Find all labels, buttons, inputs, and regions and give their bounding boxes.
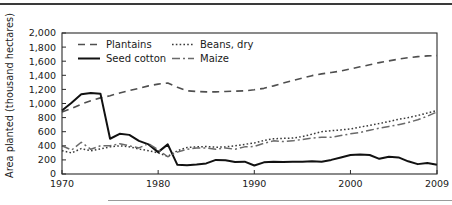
x-tick-label: 2009 xyxy=(425,178,449,189)
figure-container: Area planted (thousand hectares) 0200400… xyxy=(0,0,452,205)
x-tick-label: 2000 xyxy=(338,178,362,189)
x-tick-label: 1990 xyxy=(242,178,266,189)
legend-label-seed_cotton: Seed cotton xyxy=(106,53,166,64)
legend-label-maize: Maize xyxy=(200,53,229,64)
x-tick-label: 1970 xyxy=(50,178,74,189)
series-line-plantains xyxy=(62,56,437,112)
y-tick-label: 1,400 xyxy=(29,70,56,81)
series-group xyxy=(62,56,437,166)
series-line-seed_cotton xyxy=(62,93,437,166)
x-axis-tick-labels: 19701980199020002009 xyxy=(50,178,449,189)
bottom-divider-rule xyxy=(108,200,452,201)
legend-label-beans_dry: Beans, dry xyxy=(200,39,254,50)
y-tick-label: 200 xyxy=(38,154,56,165)
legend-label-plantains: Plantains xyxy=(106,39,152,50)
y-tick-label: 1,200 xyxy=(29,84,56,95)
y-axis-title: Area planted (thousand hectares) xyxy=(4,13,15,178)
y-tick-label: 600 xyxy=(38,126,56,137)
line-chart: Area planted (thousand hectares) 0200400… xyxy=(0,0,452,205)
y-axis-tick-marks xyxy=(62,33,66,174)
x-tick-label: 1980 xyxy=(146,178,170,189)
y-tick-label: 2,000 xyxy=(29,27,56,38)
y-axis-tick-labels: 02004006008001,0001,2001,4001,6001,8002,… xyxy=(29,27,56,179)
y-tick-label: 1,800 xyxy=(29,42,56,53)
x-axis-tick-marks xyxy=(62,170,437,174)
y-tick-label: 1,000 xyxy=(29,98,56,109)
top-divider-rule xyxy=(0,3,452,5)
y-tick-label: 800 xyxy=(38,112,56,123)
y-tick-label: 1,600 xyxy=(29,56,56,67)
chart-legend: PlantainsBeans, drySeed cottonMaize xyxy=(78,39,254,64)
y-tick-label: 400 xyxy=(38,140,56,151)
